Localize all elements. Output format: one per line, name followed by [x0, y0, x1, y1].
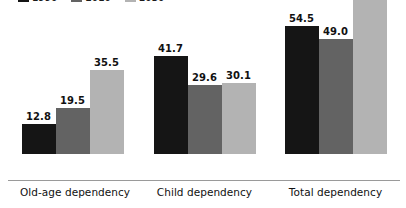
bar-value-3-1: 54.5 [289, 13, 314, 24]
bar-slot-1-2: 19.5 [56, 0, 90, 154]
x-axis-label-total: Total dependency [283, 186, 388, 198]
bar-3-1[interactable] [285, 26, 319, 154]
x-axis-line [8, 180, 400, 181]
bar-2-2[interactable] [188, 85, 222, 154]
bar-group-child: 41.7 29.6 30.1 [152, 0, 257, 154]
bar-1-3[interactable] [90, 70, 124, 154]
bar-slot-2-3: 30.1 [222, 0, 256, 154]
bar-slot-3-1: 54.5 [285, 0, 319, 154]
plot-area: 12.8 19.5 35.5 41.7 29.6 30.1 [0, 0, 406, 181]
x-axis-labels: Old-age dependency Child dependency Tota… [0, 186, 406, 208]
bar-group-old-age: 12.8 19.5 35.5 [20, 0, 125, 154]
bar-slot-3-2: 49.0 [319, 0, 353, 154]
bar-slot-3-3: 65.6 [353, 0, 387, 154]
bar-chart: 1990 2010 2030 12.8 19.5 35.5 [0, 0, 406, 208]
bar-slot-2-2: 29.6 [188, 0, 222, 154]
bar-value-2-2: 29.6 [192, 72, 217, 83]
bar-3-2[interactable] [319, 39, 353, 154]
bar-value-2-1: 41.7 [158, 43, 183, 54]
bar-value-1-3: 35.5 [94, 57, 119, 68]
x-axis-label-old-age: Old-age dependency [20, 186, 125, 198]
bar-value-3-2: 49.0 [323, 26, 348, 37]
bar-slot-2-1: 41.7 [154, 0, 188, 154]
bar-value-2-3: 30.1 [226, 70, 251, 81]
bar-1-2[interactable] [56, 108, 90, 154]
bar-value-1-1: 12.8 [26, 111, 51, 122]
bar-slot-1-1: 12.8 [22, 0, 56, 154]
x-axis-label-child: Child dependency [152, 186, 257, 198]
bar-group-total: 54.5 49.0 65.6 [283, 0, 388, 154]
bar-value-1-2: 19.5 [60, 95, 85, 106]
bar-2-3[interactable] [222, 83, 256, 154]
bar-slot-1-3: 35.5 [90, 0, 124, 154]
bar-2-1[interactable] [154, 56, 188, 154]
bar-3-3[interactable] [353, 0, 387, 154]
bar-1-1[interactable] [22, 124, 56, 154]
